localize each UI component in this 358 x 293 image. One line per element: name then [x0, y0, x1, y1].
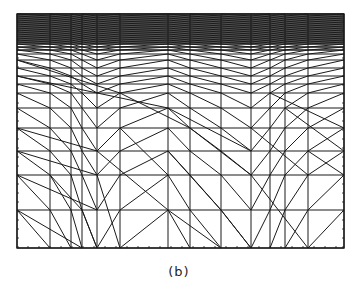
figure-caption: (b) [0, 264, 358, 279]
axis-ticks [17, 22, 344, 248]
diagonal-mesh-lines [17, 14, 344, 248]
mesh-diagram [0, 0, 358, 293]
